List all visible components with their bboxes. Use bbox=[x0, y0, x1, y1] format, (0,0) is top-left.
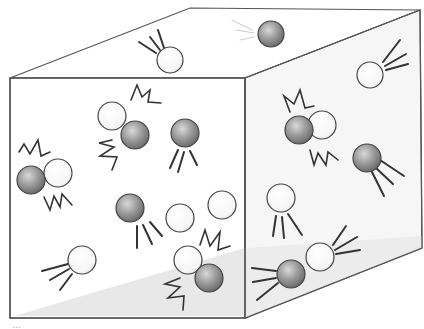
particle-dark bbox=[121, 121, 149, 149]
floor-shadow-right bbox=[245, 236, 422, 318]
particle-dark bbox=[277, 260, 305, 288]
particle-light bbox=[306, 243, 334, 271]
particle-dark bbox=[195, 264, 223, 292]
particle-dark bbox=[285, 116, 313, 144]
particle-light bbox=[157, 47, 183, 73]
particle-dark bbox=[171, 119, 199, 147]
particle-light bbox=[267, 184, 295, 212]
particle-dark bbox=[17, 166, 45, 194]
particle-light bbox=[68, 246, 96, 274]
particle-dark bbox=[258, 21, 284, 47]
particle-light bbox=[166, 204, 194, 232]
gas-container-diagram bbox=[0, 0, 424, 329]
particle-dark bbox=[116, 194, 144, 222]
particle-light bbox=[44, 159, 72, 187]
particle-dark bbox=[353, 144, 381, 172]
particle-light bbox=[208, 191, 236, 219]
caption-fragment: … bbox=[12, 320, 21, 329]
particle-light bbox=[98, 102, 126, 130]
particle-light bbox=[357, 62, 383, 88]
